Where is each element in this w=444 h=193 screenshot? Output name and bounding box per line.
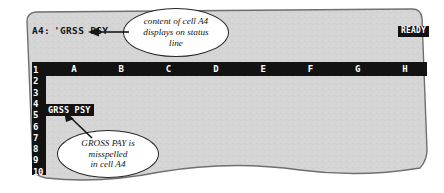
callout-cell-line-3: in cell A4 <box>90 159 125 170</box>
callout-status-line-3: line <box>169 38 183 49</box>
row-header-2[interactable]: 2 <box>33 76 38 86</box>
callout-cell-line-2: misspelled <box>89 149 128 160</box>
column-header-bar[interactable]: ABCDEFGH <box>43 62 427 76</box>
row-header-9[interactable]: 9 <box>33 155 38 165</box>
row-header-4[interactable]: 4 <box>33 99 38 109</box>
column-header-f[interactable]: F <box>308 64 313 74</box>
mode-indicator-ready: READY <box>398 26 429 37</box>
status-cell-reference: A4: <box>32 26 50 36</box>
column-header-d[interactable]: D <box>213 64 218 74</box>
row-header-bar[interactable]: 12345678910 <box>32 62 46 175</box>
leader-arrow-status <box>88 26 130 38</box>
row-header-3[interactable]: 3 <box>33 88 38 98</box>
callout-status-line-2: displays on status <box>143 27 208 38</box>
column-header-a[interactable]: A <box>71 64 76 74</box>
column-header-b[interactable]: B <box>119 64 124 74</box>
row-header-8[interactable]: 8 <box>33 144 38 154</box>
row-header-1[interactable]: 1 <box>33 65 38 75</box>
row-header-10[interactable]: 10 <box>33 167 43 175</box>
screenshot-root: A4: 'GRSS PSY READY ABCDEFGH 12345678910… <box>0 0 444 193</box>
leader-arrow-cell-a4 <box>62 110 96 140</box>
column-header-h[interactable]: H <box>402 64 407 74</box>
row-header-5[interactable]: 5 <box>33 110 38 120</box>
row-header-7[interactable]: 7 <box>33 133 38 143</box>
row-header-6[interactable]: 6 <box>33 122 38 132</box>
column-header-c[interactable]: C <box>166 64 171 74</box>
column-header-e[interactable]: E <box>260 64 265 74</box>
callout-status-line: content of cell A4 displays on status li… <box>123 8 229 57</box>
callout-status-line-1: content of cell A4 <box>144 16 208 27</box>
column-header-g[interactable]: G <box>355 64 360 74</box>
